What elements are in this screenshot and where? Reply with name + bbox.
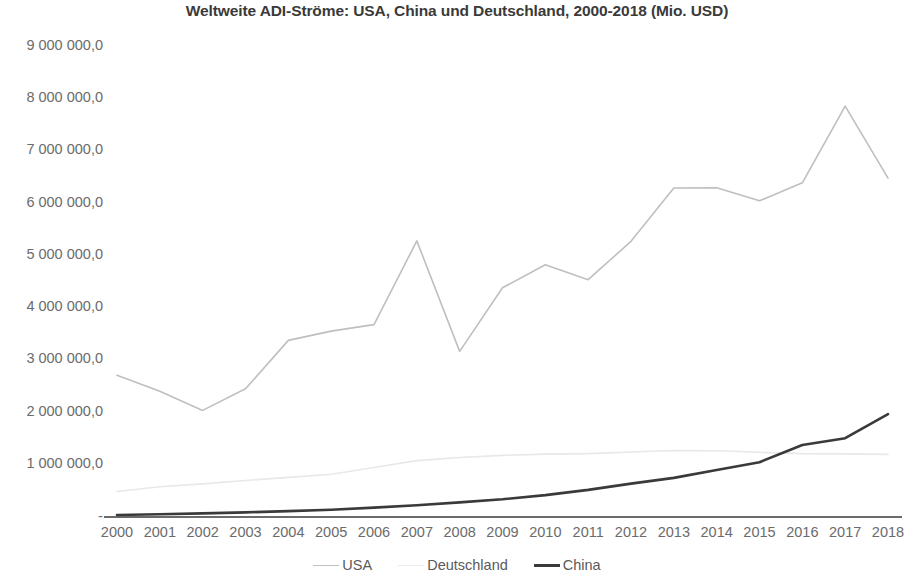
x-axis-tick-label: 2017 [829,524,861,540]
x-axis-tick-label: 2001 [144,524,176,540]
x-axis: 2000200120022003200420052006200720082009… [0,524,914,548]
legend-label: USA [342,558,372,573]
x-axis-tick-label: 2008 [444,524,476,540]
chart-legend: USADeutschlandChina [0,553,914,578]
x-axis-tick-label: 2004 [272,524,304,540]
x-axis-tick-label: 2014 [701,524,733,540]
legend-label: Deutschland [427,558,508,573]
x-axis-tick-label: 2010 [529,524,561,540]
x-axis-tick-label: 2000 [101,524,133,540]
x-axis-tick-label: 2012 [615,524,647,540]
x-axis-tick-label: 2011 [573,524,604,540]
legend-item-deutschland[interactable]: Deutschland [398,558,508,573]
series-line-usa [117,106,888,410]
x-axis-tick-label: 2003 [229,524,261,540]
x-axis-tick-label: 2006 [358,524,390,540]
x-axis-tick-label: 2016 [786,524,818,540]
legend-item-usa[interactable]: USA [313,558,372,573]
chart-container: Weltweite ADI-Ströme: USA, China und Deu… [0,0,914,578]
plot-area [0,0,914,578]
legend-line-swatch [534,564,560,567]
x-axis-tick-label: 2018 [872,524,904,540]
x-axis-tick-label: 2002 [187,524,219,540]
x-axis-tick-label: 2009 [486,524,518,540]
x-axis-tick-label: 2015 [743,524,775,540]
x-axis-tick-label: 2005 [315,524,347,540]
x-axis-tick-label: 2013 [658,524,690,540]
series-line-china [117,414,888,515]
legend-label: China [563,558,601,573]
legend-line-swatch [398,565,424,566]
x-axis-tick-label: 2007 [401,524,433,540]
legend-line-swatch [313,565,339,566]
legend-item-china[interactable]: China [534,558,601,573]
